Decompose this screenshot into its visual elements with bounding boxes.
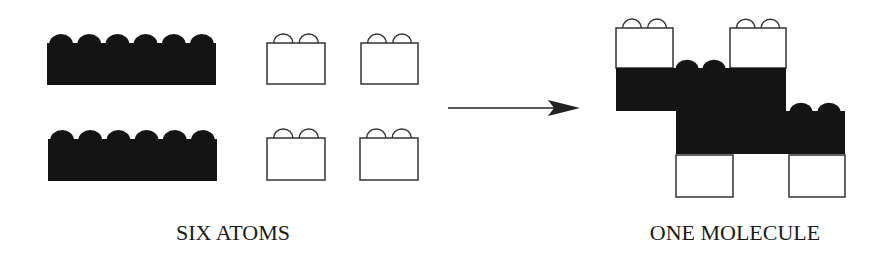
stud [274,34,293,43]
stud [77,34,101,44]
stud [274,129,293,138]
one-molecule-group [616,19,845,197]
six-atoms-label: SIX ATOMS [176,220,290,245]
brick-body [48,139,217,181]
white-brick [676,155,733,197]
stud [135,130,159,140]
stud [368,34,387,43]
brick-body [730,28,786,68]
stud [393,34,412,43]
stud [190,34,214,44]
brick-body [789,155,845,197]
brick-body [361,43,418,84]
stud [367,129,386,138]
brick-body [616,28,673,68]
brick-body [267,138,325,180]
white-brick [730,19,786,68]
black-brick [676,111,845,154]
stud [736,19,754,28]
brick-body [267,43,325,84]
stud [676,60,699,69]
stud [134,34,158,44]
stud [163,130,187,140]
black-brick [47,34,216,85]
stud [191,130,215,140]
one-molecule-label: ONE MOLECULE [650,220,820,245]
stud [107,130,131,140]
stud [790,103,813,112]
stud [299,129,318,138]
reaction-arrow [448,100,580,116]
white-brick [361,34,418,84]
white-brick [616,19,673,68]
stud [761,19,779,28]
stud [106,34,130,44]
black-brick [616,68,786,111]
brick-body [676,155,733,197]
stud [623,19,642,28]
stud [162,34,186,44]
stud [648,19,667,28]
stud [299,34,318,43]
stud [50,130,74,140]
stud [703,60,726,69]
black-brick [48,130,217,181]
stud [818,103,841,112]
six-atoms-group [47,34,418,181]
atoms-to-molecule-diagram: SIX ATOMS ONE MOLECULE [0,0,890,267]
brick-body [360,138,418,180]
white-brick [789,155,845,197]
stud [78,130,102,140]
white-brick [267,34,325,84]
brick-body [47,43,216,85]
white-brick [360,129,418,180]
stud [392,129,411,138]
stud [49,34,73,44]
white-brick [267,129,325,180]
